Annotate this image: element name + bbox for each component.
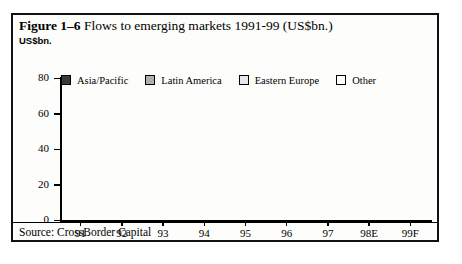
y-tick-mark	[54, 78, 60, 80]
y-tick-label: 20	[23, 178, 49, 190]
y-tick-mark	[54, 113, 60, 115]
legend-entry: Asia/Pacific	[61, 75, 128, 86]
footer-divider	[13, 222, 437, 224]
x-tick-label: 97	[311, 227, 345, 239]
y-tick-label: 60	[23, 107, 49, 119]
legend-entry: Eastern Europe	[239, 75, 319, 86]
x-tick-label: 98E	[352, 227, 386, 239]
y-tick-label: 80	[23, 71, 49, 83]
figure-title: Figure 1–6 Flows to emerging markets 199…	[19, 18, 433, 33]
legend-label: Asia/Pacific	[77, 75, 128, 86]
legend-swatch-icon	[239, 75, 249, 85]
legend-label: Eastern Europe	[255, 75, 319, 86]
source-note: Source: CrossBorder Capital	[19, 226, 151, 238]
figure-title-text: Flows to emerging markets 1991-99 (US$bn…	[84, 18, 333, 33]
figure-number: Figure 1–6	[19, 18, 81, 33]
x-tick-label: 99F	[393, 227, 427, 239]
x-tick-label: 95	[229, 227, 263, 239]
legend-swatch-icon	[61, 75, 71, 85]
y-tick-mark	[54, 149, 60, 151]
y-axis-unit-label: US$bn.	[19, 35, 52, 46]
y-tick-label: 0	[23, 213, 49, 225]
y-tick-mark	[54, 184, 60, 186]
legend-entry: Latin America	[145, 75, 221, 86]
chart-legend: Asia/PacificLatin AmericaEastern EuropeO…	[61, 72, 433, 88]
y-axis-line	[60, 77, 62, 222]
legend-swatch-icon	[336, 75, 346, 85]
y-tick-label: 40	[23, 142, 49, 154]
legend-entry: Other	[336, 75, 376, 86]
legend-label: Latin America	[161, 75, 221, 86]
x-tick-label: 94	[187, 227, 221, 239]
x-tick-label: 96	[270, 227, 304, 239]
legend-label: Other	[352, 75, 376, 86]
legend-swatch-icon	[145, 75, 155, 85]
figure-frame: Figure 1–6 Flows to emerging markets 199…	[11, 13, 439, 242]
